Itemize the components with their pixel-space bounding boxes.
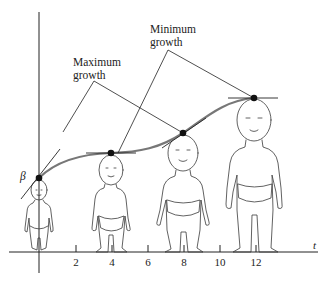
maximum-line1: Maximum bbox=[73, 56, 121, 68]
minimum-line1: Minimum bbox=[150, 23, 196, 35]
tick-label-8: 8 bbox=[181, 256, 187, 268]
maximum-growth-label: Maximum growth bbox=[73, 56, 121, 82]
tick-label-2: 2 bbox=[73, 256, 79, 268]
marked-points bbox=[36, 95, 258, 182]
tick-label-12: 12 bbox=[251, 256, 262, 268]
tangent-beta bbox=[21, 149, 60, 199]
baby-t8 bbox=[157, 135, 209, 252]
tick-label-6: 6 bbox=[145, 256, 151, 268]
point-t8 bbox=[180, 130, 187, 137]
t-axis-label: t bbox=[313, 239, 317, 251]
baby-t4 bbox=[92, 155, 130, 252]
x-tick-labels: 2 4 6 8 10 12 bbox=[73, 256, 261, 268]
baby-t12 bbox=[226, 99, 282, 252]
tick-label-4: 4 bbox=[109, 256, 115, 268]
beta-label: β bbox=[19, 170, 26, 183]
growth-curve bbox=[39, 98, 254, 178]
point-t12 bbox=[251, 95, 258, 102]
x-ticks bbox=[76, 245, 256, 252]
maximum-line2: growth bbox=[73, 69, 106, 82]
growth-diagram: 2 4 6 8 10 12 t β bbox=[0, 0, 329, 281]
tick-label-10: 10 bbox=[215, 256, 227, 268]
minimum-growth-label: Minimum growth bbox=[150, 23, 196, 49]
point-t4 bbox=[108, 150, 115, 157]
point-beta bbox=[36, 175, 43, 182]
maximum-growth-leaders bbox=[63, 81, 183, 133]
minimum-line2: growth bbox=[150, 36, 183, 49]
